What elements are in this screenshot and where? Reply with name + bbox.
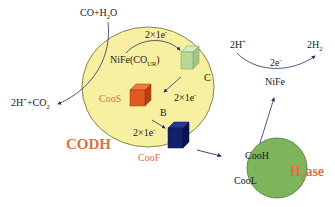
cooh-to-nife-line <box>260 98 274 143</box>
cooh-label: CooH <box>245 151 269 161</box>
cluster-c-cube <box>181 46 199 69</box>
diagram-canvas <box>0 0 335 207</box>
coos-label: CooS <box>99 94 121 104</box>
coos-cube <box>130 84 151 106</box>
h2ase-nife-label: NiFe <box>265 77 285 87</box>
cluster-c-label: C <box>204 73 211 83</box>
hydrogen-product-label: 2H2 <box>307 40 322 50</box>
cool-label: CooL <box>234 176 257 186</box>
substrate-co-h2o: CO+H2O <box>80 8 117 18</box>
nife-cour-active-site: NiFe(COUR) <box>110 55 160 65</box>
electron-transfer-label-1: 2×1e- <box>145 30 167 40</box>
coof-cube <box>168 122 189 148</box>
codh-label: CODH <box>66 137 111 152</box>
electron-transfer-label-3: 2×1e- <box>133 128 155 138</box>
coof-label: CooF <box>138 153 160 163</box>
product-2h-co2: 2H++CO2 <box>11 98 50 108</box>
electron-transfer-label-2: 2×1e- <box>174 93 196 103</box>
h2ase-label: H2ase <box>290 165 324 179</box>
coof-to-h2ase-arrow <box>197 150 221 156</box>
proton-reactant-label: 2H+ <box>230 40 246 50</box>
cluster-b-label: B <box>160 108 167 118</box>
two-electron-label: 2e- <box>270 58 282 68</box>
